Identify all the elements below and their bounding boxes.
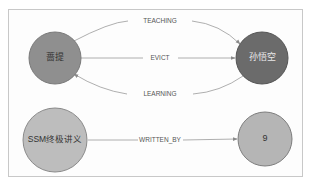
node-sunwukong[interactable]: 孙悟空 (236, 32, 288, 84)
node-label: 蔷提 (46, 51, 64, 62)
node-label: 孙悟空 (249, 51, 276, 62)
edge-learning[interactable]: LEARNING (74, 74, 243, 97)
node-qiti[interactable]: 蔷提 (29, 32, 81, 84)
edge-label-written-by: WRITTEN_BY (139, 136, 182, 144)
node-ssm-book[interactable]: SSM终极讲义 (23, 108, 87, 172)
edge-evict[interactable]: EVICT (81, 54, 235, 61)
edge-label-evict: EVICT (150, 54, 169, 61)
graph-svg: TEACHING EVICT LEARNING WRITTEN_BY 蔷提 孙悟… (0, 0, 310, 187)
edge-label-learning: LEARNING (143, 90, 176, 97)
edge-label-teaching: TEACHING (143, 17, 177, 24)
node-9[interactable]: 9 (238, 112, 292, 166)
edge-written-by[interactable]: WRITTEN_BY (88, 136, 237, 144)
node-label: 9 (262, 133, 267, 143)
edge-teaching[interactable]: TEACHING (72, 17, 240, 44)
node-label: SSM终极讲义 (28, 134, 82, 144)
